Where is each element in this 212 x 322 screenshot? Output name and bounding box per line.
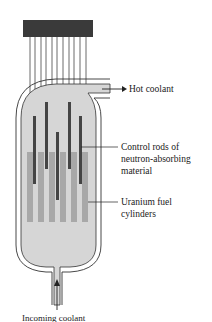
arrowhead-icon — [122, 86, 127, 92]
label-control-rods-1: Control rods of — [121, 142, 180, 152]
label-control-rods-3: material — [121, 166, 152, 176]
control-rod — [56, 132, 59, 200]
fuel-cylinder — [38, 152, 44, 222]
control-rod — [45, 102, 48, 169]
control-rod — [68, 102, 71, 169]
control-rod — [33, 116, 36, 184]
fuel-cylinder — [27, 152, 33, 222]
fuel-cylinder — [60, 152, 66, 222]
label-fuel-1: Uranium fuel — [121, 197, 172, 207]
fuel-cylinder — [71, 152, 77, 222]
reactor-diagram: Hot coolant Control rods of neutron-abso… — [0, 0, 212, 322]
label-incoming-coolant: Incoming coolant — [22, 313, 86, 322]
label-hot-coolant: Hot coolant — [129, 84, 174, 94]
fuel-cylinder — [49, 152, 55, 222]
control-rod-drive-housing — [23, 20, 93, 37]
label-control-rods-2: neutron-absorbing — [121, 154, 191, 164]
fuel-cylinder — [82, 152, 88, 222]
label-fuel-2: cylinders — [121, 209, 156, 219]
control-rod — [79, 116, 82, 184]
